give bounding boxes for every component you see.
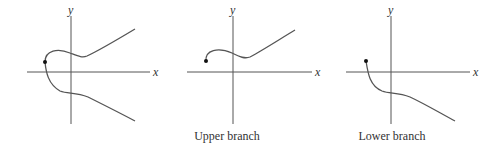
endpoint-dot xyxy=(43,60,47,64)
y-axis-label: y xyxy=(67,3,74,17)
lower-branch-curve xyxy=(45,62,135,121)
lower-branch-curve xyxy=(366,61,455,121)
endpoint-dot xyxy=(364,59,368,63)
panel-lower-branch: x y Lower branch xyxy=(346,3,479,143)
y-axis-label: y xyxy=(229,3,236,17)
endpoint-dot xyxy=(204,59,208,63)
upper-branch-curve xyxy=(45,29,135,62)
x-axis-label: x xyxy=(472,65,479,79)
y-axis-label: y xyxy=(387,3,394,17)
x-axis-label: x xyxy=(314,65,321,79)
caption-lower-branch: Lower branch xyxy=(359,129,426,143)
caption-upper-branch: Upper branch xyxy=(194,129,260,143)
x-axis-label: x xyxy=(152,65,159,79)
panel-full-curve: x y xyxy=(27,3,159,124)
panel-upper-branch: x y Upper branch xyxy=(187,3,321,143)
diagram-canvas: x y x y Upper branch x y Lower branch xyxy=(0,0,495,151)
upper-branch-curve xyxy=(206,30,295,61)
